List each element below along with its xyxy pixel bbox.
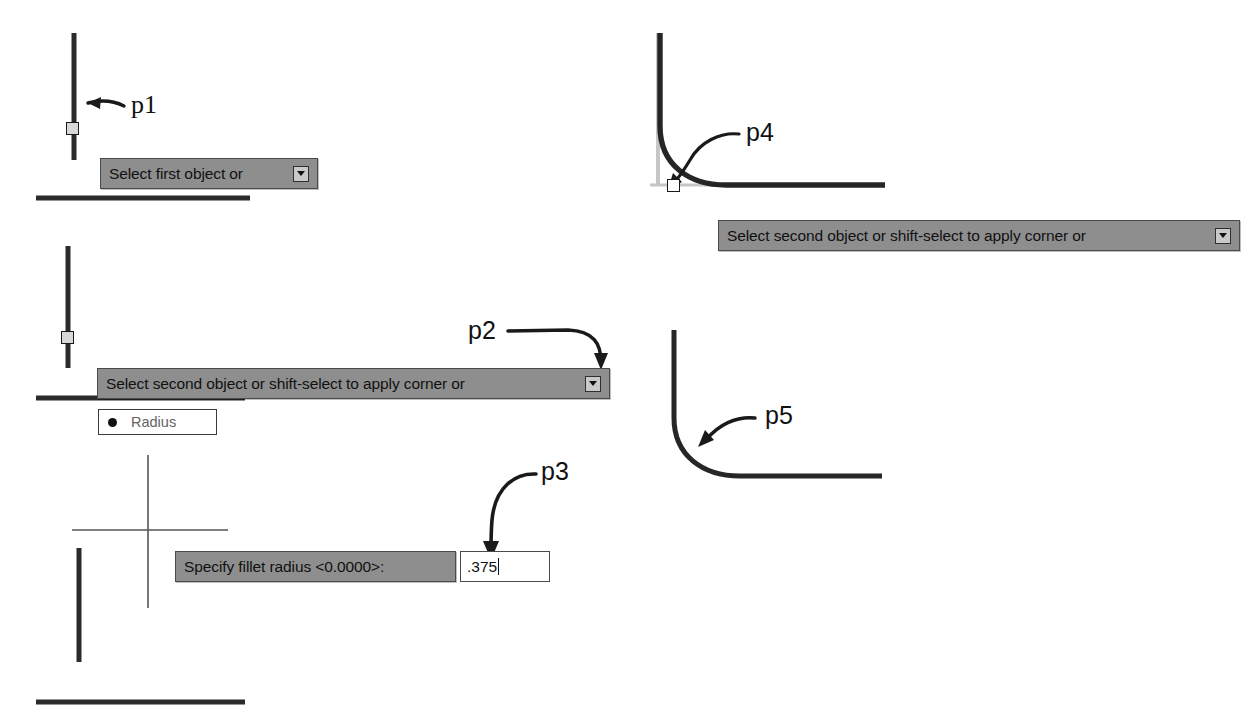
pick-marker-p4 xyxy=(667,179,680,192)
p5-leader-arrow xyxy=(698,418,755,447)
radius-input-value: .375 xyxy=(467,558,497,576)
tooltip-prompt-text: Select second object or shift-select to … xyxy=(727,227,1086,245)
p2-leader-arrow xyxy=(508,330,608,370)
tooltip-select-second-object-right[interactable]: Select second object or shift-select to … xyxy=(718,220,1240,251)
p3-leader-arrow xyxy=(483,474,536,560)
callout-label-p4: p4 xyxy=(746,120,774,145)
chevron-down-glyph xyxy=(589,381,597,386)
chevron-down-glyph xyxy=(1219,233,1227,238)
chevron-down-icon[interactable] xyxy=(585,376,601,392)
pick-marker-p1 xyxy=(66,122,79,135)
tooltip-prompt-text: Select first object or xyxy=(109,165,243,183)
callout-label-p1: p1 xyxy=(131,92,157,118)
figure-canvas: p1 p2 p3 p4 p5 Select first object or Se… xyxy=(0,0,1252,727)
text-caret xyxy=(498,558,499,575)
option-menu-item-radius[interactable]: Radius xyxy=(98,409,217,435)
tooltip-select-second-object-left[interactable]: Select second object or shift-select to … xyxy=(97,368,610,399)
p1-leader-arrow xyxy=(88,97,124,109)
chevron-down-glyph xyxy=(297,171,305,176)
step4-geometry xyxy=(650,33,885,186)
cad-geometry xyxy=(0,0,1252,727)
chevron-down-icon[interactable] xyxy=(1215,228,1231,244)
callout-label-p3: p3 xyxy=(541,459,569,484)
chevron-down-icon[interactable] xyxy=(293,166,309,182)
bullet-dot-icon xyxy=(108,418,117,427)
callout-label-p2: p2 xyxy=(468,318,496,343)
tooltip-select-first-object[interactable]: Select first object or xyxy=(100,158,318,189)
option-menu-label: Radius xyxy=(131,414,176,430)
pick-marker-p2 xyxy=(61,331,74,344)
callout-label-p5: p5 xyxy=(765,403,793,428)
tooltip-specify-fillet-radius[interactable]: Specify fillet radius <0.0000>: xyxy=(175,551,456,582)
tooltip-prompt-text: Select second object or shift-select to … xyxy=(106,375,465,393)
tooltip-prompt-text: Specify fillet radius <0.0000>: xyxy=(184,558,384,576)
radius-input-field[interactable]: .375 xyxy=(460,551,550,582)
